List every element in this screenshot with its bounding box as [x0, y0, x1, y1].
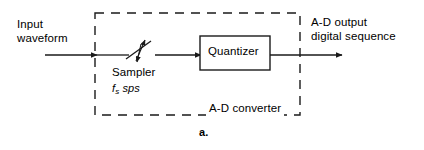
- sampler-rate-unit: sps: [122, 82, 139, 94]
- input-waveform-label-line2: waveform: [17, 32, 68, 46]
- input-waveform-label: Input waveform: [17, 18, 68, 45]
- ad-output-label-line1: A-D output: [311, 16, 396, 30]
- sampler-rate-subscript: s: [115, 87, 119, 96]
- sampler-label: Sampler: [112, 66, 156, 80]
- sampler-switch-actuation-arrow-lower: [137, 44, 141, 62]
- input-waveform-label-line1: Input: [17, 18, 68, 32]
- quantizer-label: Quantizer: [208, 45, 259, 59]
- ad-converter-label: A-D converter: [206, 102, 284, 116]
- ad-output-label-line2: digital sequence: [311, 30, 396, 44]
- sampler-rate-label: fs sps: [112, 82, 140, 99]
- figure-caption: a.: [199, 126, 208, 140]
- figure-container: Input waveform A-D output digital sequen…: [0, 0, 424, 150]
- ad-output-label: A-D output digital sequence: [311, 16, 396, 43]
